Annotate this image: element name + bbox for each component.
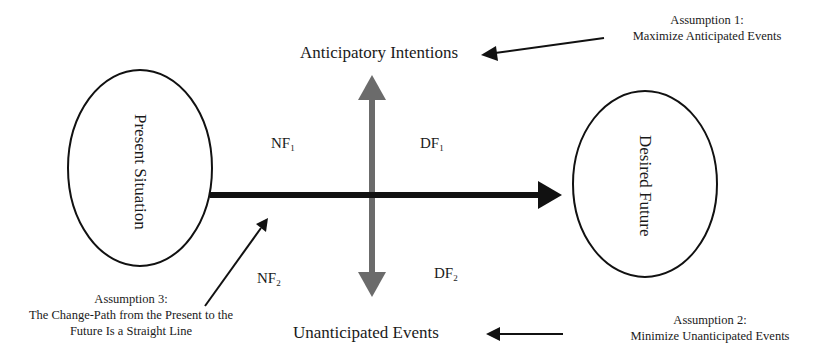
present-situation-label: Present Situation (130, 114, 150, 224)
quadrant-df2-label: DF2 (434, 265, 458, 283)
nf1-base: NF (271, 135, 290, 151)
nf1-sub: 1 (290, 143, 295, 153)
assumption2-block: Assumption 2: Minimize Unanticipated Eve… (610, 312, 810, 344)
assumption3-title: Assumption 3: (0, 291, 262, 307)
assumption1-block: Assumption 1: Maximize Anticipated Event… (612, 12, 802, 44)
assumption1-title: Assumption 1: (612, 12, 802, 28)
assumption1-pointer-arrow (481, 38, 604, 61)
nf2-base: NF (257, 270, 276, 286)
assumption3-line2: Future Is a Straight Line (0, 323, 262, 339)
assumption1-text: Maximize Anticipated Events (612, 28, 802, 44)
nf2-sub: 2 (276, 278, 281, 288)
quadrant-nf2-label: NF2 (257, 270, 281, 288)
assumption2-title: Assumption 2: (610, 312, 810, 328)
assumption3-line1: The Change-Path from the Present to the (0, 307, 262, 323)
df2-base: DF (434, 265, 453, 281)
unanticipated-events-label: Unanticipated Events (293, 323, 439, 343)
change-path-arrow (210, 181, 562, 209)
quadrant-nf1-label: NF1 (271, 135, 295, 153)
assumption2-pointer-arrow (486, 327, 563, 341)
assumption3-block: Assumption 3: The Change-Path from the P… (0, 291, 262, 339)
assumption2-text: Minimize Unanticipated Events (610, 328, 810, 344)
vertical-double-arrow (358, 75, 386, 297)
anticipatory-intentions-label: Anticipatory Intentions (300, 43, 458, 63)
desired-future-label: Desired Future (635, 135, 655, 235)
df1-base: DF (420, 135, 439, 151)
df2-sub: 2 (453, 273, 458, 283)
quadrant-df1-label: DF1 (420, 135, 444, 153)
df1-sub: 1 (439, 143, 444, 153)
